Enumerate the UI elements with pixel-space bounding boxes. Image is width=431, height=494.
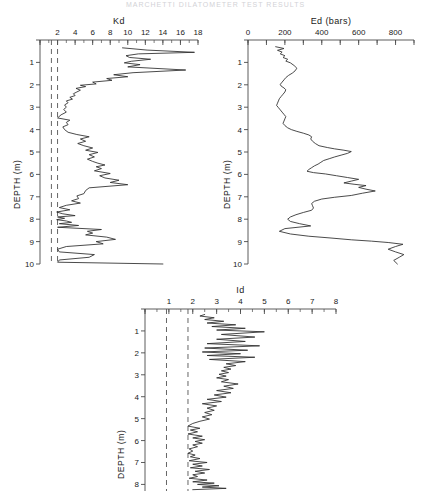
kd-panel: KdDEPTH (m)2468101214161812345678910 xyxy=(0,14,212,276)
plot-canvas-ed-profile xyxy=(212,14,431,276)
dilatometer-figure: MARCHETTI DILATOMETER TEST RESULTS KdDEP… xyxy=(0,0,431,494)
plot-canvas-id-profile xyxy=(100,283,360,494)
plot-canvas-kd-profile xyxy=(0,14,212,276)
ed-panel: Ed (bars)DEPTH (m)0200400600800123456789… xyxy=(212,14,431,276)
figure-top-note: MARCHETTI DILATOMETER TEST RESULTS xyxy=(0,1,431,8)
id-panel: IdDEPTH (m)1234567812345678 xyxy=(100,283,360,494)
